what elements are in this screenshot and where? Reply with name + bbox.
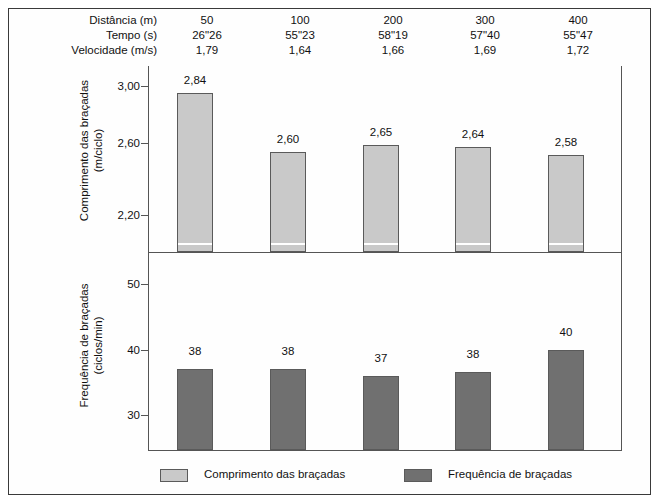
y-tick-label: 30 <box>100 409 140 421</box>
bar-value-label: 2,64 <box>443 128 503 140</box>
bar-value-label: 2,58 <box>536 136 596 148</box>
bar-frequencia-4 <box>455 372 491 450</box>
bar-frequencia-1 <box>177 369 213 450</box>
y-tick-label: 3,00 <box>100 80 140 92</box>
header-cell: 400 <box>532 14 624 26</box>
bar-value-label: 38 <box>165 345 225 357</box>
bar-value-label: 2,65 <box>351 126 411 138</box>
y-tick-mark <box>141 86 148 87</box>
header-row-label: Tempo (s) <box>9 29 157 41</box>
header-cell: 57"40 <box>439 29 531 41</box>
bar-baseline-marker <box>364 243 398 245</box>
bar-frequencia-2 <box>270 369 306 450</box>
legend-swatch-light-icon <box>160 469 188 482</box>
y-tick-mark <box>141 350 148 351</box>
bar-baseline-marker <box>178 243 212 245</box>
header-row-distancia: Distância (m) 50 100 200 300 400 <box>9 14 649 29</box>
bar-frequencia-3 <box>363 376 399 450</box>
header-row-label: Distância (m) <box>9 14 157 26</box>
bar-value-label: 2,60 <box>258 133 318 145</box>
bar-value-label: 2,84 <box>165 74 225 86</box>
y-axis-title-frequencia: Frequência de braçadas <box>78 253 91 438</box>
legend-label: Comprimento das braçadas <box>204 468 345 480</box>
y-tick-label: 40 <box>100 344 140 356</box>
header-cell: 50 <box>161 14 253 26</box>
bar-comprimento-4 <box>455 147 491 252</box>
y-tick-mark <box>141 143 148 144</box>
y-tick-mark <box>141 215 148 216</box>
bar-comprimento-2 <box>270 152 306 252</box>
y-tick-label: 2,60 <box>100 137 140 149</box>
header-cell: 26"26 <box>161 29 253 41</box>
header-row-velocidade: Velocidade (m/s) 1,79 1,64 1,66 1,69 1,7… <box>9 44 649 59</box>
header-data-table: Distância (m) 50 100 200 300 400 Tempo (… <box>9 14 649 62</box>
chart-legend: Comprimento das braçadas Frequência de b… <box>148 466 622 488</box>
bar-value-label: 40 <box>536 326 596 338</box>
header-cell: 1,64 <box>254 44 346 56</box>
header-cell: 300 <box>439 14 531 26</box>
header-cell: 1,72 <box>532 44 624 56</box>
bar-value-label: 37 <box>351 352 411 364</box>
header-cell: 58"19 <box>347 29 439 41</box>
y-tick-label: 2,20 <box>100 209 140 221</box>
bar-frequencia-5 <box>548 350 584 450</box>
header-cell: 100 <box>254 14 346 26</box>
bar-baseline-marker <box>549 243 583 245</box>
bar-comprimento-5 <box>548 155 584 252</box>
bar-baseline-marker <box>271 243 305 245</box>
header-cell: 1,79 <box>161 44 253 56</box>
y-tick-mark <box>141 284 148 285</box>
bar-comprimento-3 <box>363 145 399 252</box>
header-cell: 200 <box>347 14 439 26</box>
bar-value-label: 38 <box>258 345 318 357</box>
header-row-tempo: Tempo (s) 26"26 55"23 58"19 57"40 55"47 <box>9 29 649 44</box>
header-cell: 55"23 <box>254 29 346 41</box>
bar-baseline-marker <box>456 243 490 245</box>
header-cell: 55"47 <box>532 29 624 41</box>
y-axis-title-comprimento: Comprimento das braçadas <box>78 58 91 243</box>
legend-label: Frequência de braçadas <box>448 468 572 480</box>
legend-swatch-dark-icon <box>404 469 432 482</box>
chart-figure: Distância (m) 50 100 200 300 400 Tempo (… <box>0 0 662 504</box>
header-row-label: Velocidade (m/s) <box>9 44 157 56</box>
bar-value-label: 38 <box>443 348 503 360</box>
y-tick-mark <box>141 415 148 416</box>
header-cell: 1,69 <box>439 44 531 56</box>
header-cell: 1,66 <box>347 44 439 56</box>
y-tick-label: 50 <box>100 278 140 290</box>
bar-comprimento-1 <box>177 93 213 252</box>
